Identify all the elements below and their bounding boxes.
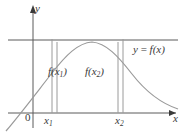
- fx2-prefix: f(x: [85, 65, 97, 77]
- fx1-label: f(x1): [48, 66, 67, 79]
- x1-tick-label: x1: [44, 115, 53, 128]
- function-graph-figure: y x 0 x1 x2 f(x1) f(x2) y = f(x): [0, 0, 184, 138]
- fx2-label: f(x2): [85, 66, 104, 79]
- y-axis: [30, 5, 36, 128]
- curve-eq-operator: =: [138, 43, 150, 55]
- fx2-suffix: ): [100, 65, 104, 77]
- x2-tick-label: x2: [115, 115, 124, 128]
- curve-eq-rhs: f(x): [150, 43, 165, 55]
- curve-equation-label: y = f(x): [133, 44, 165, 55]
- fx1-prefix: f(x: [48, 65, 60, 77]
- fx1-suffix: ): [63, 65, 67, 77]
- x2-subscript: 2: [120, 119, 124, 128]
- function-curve: [6, 42, 178, 131]
- origin-label: 0: [25, 112, 31, 123]
- x-axis-label: x: [173, 113, 178, 124]
- x1-subscript: 1: [49, 119, 53, 128]
- ordinate-lines-x2: [118, 39, 123, 113]
- y-axis-label: y: [35, 3, 40, 14]
